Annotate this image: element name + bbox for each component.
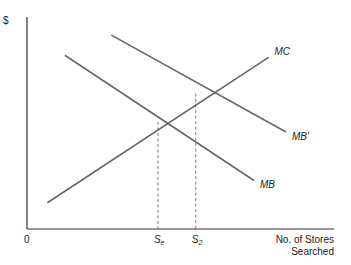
origin-label: 0 [24,234,30,245]
curve-mc [47,57,268,202]
curve-label-mb-prime: MB' [292,131,310,142]
curve-label-mb: MB [260,179,275,190]
x-tick-label-s2: S2 [192,234,203,246]
y-axis-label: $ [3,15,9,26]
curve-label-mc: MC [275,46,291,57]
curve-mb [65,55,254,180]
x-axis-label-line1: No. of Stores [276,234,334,245]
x-tick-label-se: Se [154,234,165,246]
x-axis-label-line2: Searched [291,246,334,257]
search-cost-benefit-chart: $ 0 No. of Stores Searched MCMBMB' SeS2 [0,0,351,265]
curve-mb-prime [111,35,286,132]
